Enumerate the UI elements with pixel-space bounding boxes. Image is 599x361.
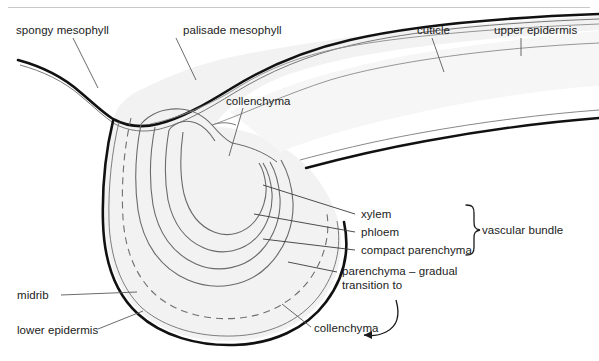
label-vascular-bundle: vascular bundle [482,224,563,237]
label-spongy-mesophyll: spongy mesophyll [16,24,109,37]
diagram-canvas [0,0,599,361]
label-lower-epidermis: lower epidermis [17,324,98,337]
label-compact-parenchyma: compact parenchyma [361,244,472,257]
label-phloem: phloem [361,226,399,239]
leader-spongy-mesophyll [73,38,98,88]
label-cuticle: cuticle [417,24,450,37]
leader-lower-epidermis [98,311,143,329]
leaf-cross-section-figure: spongy mesophyll palisade mesophyll cuti… [0,0,599,361]
label-xylem: xylem [361,208,391,221]
label-parenchyma-transition-line1: parenchyma – gradual [342,265,457,278]
label-palisade-mesophyll: palisade mesophyll [183,24,282,37]
label-upper-epidermis: upper epidermis [494,24,577,37]
label-midrib: midrib [17,289,49,302]
label-collenchyma-bottom: collenchyma [314,322,378,335]
label-collenchyma-top: collenchyma [226,95,290,108]
label-parenchyma-transition-line2: transition to [342,279,402,292]
